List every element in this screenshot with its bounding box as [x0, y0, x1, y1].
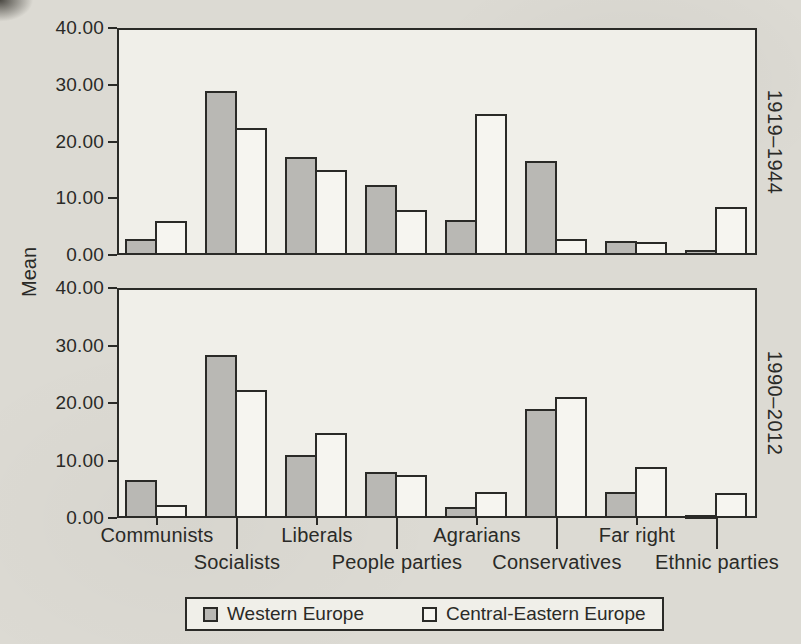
bar-western-europe-ethnic-parties	[685, 515, 717, 519]
bar-western-europe-people-parties	[365, 472, 397, 518]
y-axis-tick	[108, 345, 117, 347]
y-axis-tick-label: 20.00	[22, 391, 104, 415]
y-axis-tick-label: 40.00	[22, 16, 104, 40]
x-axis-tick	[716, 518, 718, 549]
legend: Western Europe Central-Eastern Europe	[185, 597, 664, 631]
bar-western-europe-communists	[125, 239, 157, 255]
bar-central-eastern-europe-far-right	[635, 242, 667, 255]
bar-western-europe-people-parties	[365, 185, 397, 255]
category-label-far-right: Far right	[552, 523, 722, 547]
y-axis-tick-label: 30.00	[22, 73, 104, 97]
bar-chart-figure: Mean 0.0010.0020.0030.0040.001919–19440.…	[0, 0, 801, 644]
category-label-liberals: Liberals	[232, 523, 402, 547]
bar-central-eastern-europe-agrarians	[475, 492, 507, 518]
bar-central-eastern-europe-agrarians	[475, 114, 507, 255]
bar-western-europe-agrarians	[445, 507, 477, 519]
y-axis-title: Mean	[17, 212, 41, 332]
y-axis-tick	[108, 141, 117, 143]
y-axis-tick-label: 10.00	[22, 186, 104, 210]
bar-western-europe-socialists	[205, 355, 237, 518]
y-axis-tick	[108, 460, 117, 462]
bar-central-eastern-europe-people-parties	[395, 210, 427, 255]
bar-central-eastern-europe-far-right	[635, 467, 667, 518]
category-label-agrarians: Agrarians	[392, 523, 562, 547]
scanned-figure-page: Mean 0.0010.0020.0030.0040.001919–19440.…	[0, 0, 801, 644]
bar-central-eastern-europe-communists	[155, 221, 187, 255]
legend-swatch-western-europe-icon	[203, 607, 218, 622]
bar-central-eastern-europe-ethnic-parties	[715, 493, 747, 518]
bar-western-europe-socialists	[205, 91, 237, 255]
bar-western-europe-liberals	[285, 455, 317, 518]
category-label-ethnic-parties: Ethnic parties	[632, 550, 801, 574]
bar-central-eastern-europe-conservatives	[555, 239, 587, 255]
y-axis-tick	[108, 517, 117, 519]
bar-western-europe-liberals	[285, 157, 317, 255]
y-axis-tick-label: 40.00	[22, 276, 104, 300]
bar-central-eastern-europe-liberals	[315, 170, 347, 255]
category-label-communists: Communists	[72, 523, 242, 547]
panel-period-label-1990-2012: 1990–2012	[763, 343, 787, 463]
y-axis-tick	[108, 84, 117, 86]
bar-central-eastern-europe-socialists	[235, 128, 267, 255]
y-axis-tick	[108, 197, 117, 199]
category-label-socialists: Socialists	[152, 550, 322, 574]
bar-central-eastern-europe-liberals	[315, 433, 347, 518]
legend-label-central-eastern-europe: Central-Eastern Europe	[446, 603, 646, 625]
bar-central-eastern-europe-socialists	[235, 390, 267, 518]
y-axis-tick	[108, 287, 117, 289]
y-axis-tick	[108, 402, 117, 404]
bar-central-eastern-europe-communists	[155, 505, 187, 518]
y-axis-tick	[108, 254, 117, 256]
bar-western-europe-ethnic-parties	[685, 250, 717, 255]
bar-western-europe-far-right	[605, 492, 637, 518]
y-axis-tick-label: 20.00	[22, 130, 104, 154]
bar-western-europe-conservatives	[525, 409, 557, 518]
y-axis-tick-label: 0.00	[22, 243, 104, 267]
y-axis-tick-label: 30.00	[22, 334, 104, 358]
category-label-conservatives: Conservatives	[472, 550, 642, 574]
panel-period-label-1919-1944: 1919–1944	[763, 82, 787, 202]
bar-western-europe-far-right	[605, 241, 637, 255]
bar-western-europe-communists	[125, 480, 157, 518]
bar-central-eastern-europe-ethnic-parties	[715, 207, 747, 255]
bar-central-eastern-europe-people-parties	[395, 475, 427, 518]
y-axis-tick	[108, 27, 117, 29]
legend-label-western-europe: Western Europe	[227, 603, 364, 625]
bar-central-eastern-europe-conservatives	[555, 397, 587, 518]
legend-swatch-central-eastern-europe-icon	[422, 607, 437, 622]
y-axis-tick-label: 10.00	[22, 449, 104, 473]
bar-western-europe-conservatives	[525, 161, 557, 255]
category-label-people-parties: People parties	[312, 550, 482, 574]
bar-western-europe-agrarians	[445, 220, 477, 255]
